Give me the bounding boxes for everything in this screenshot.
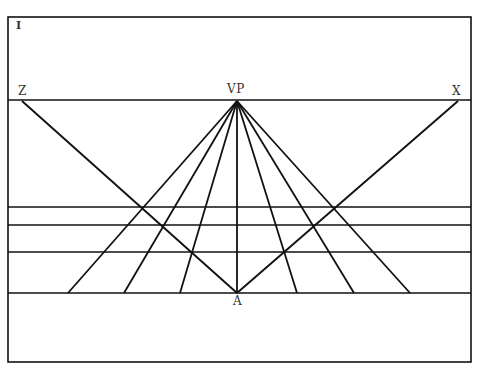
perspective-diagram (0, 0, 481, 366)
converging-line (124, 101, 237, 293)
converging-line (237, 101, 410, 293)
diagonal-line (237, 101, 458, 293)
converging-line (237, 101, 354, 293)
label-vp: VP (227, 82, 245, 96)
label-a: A (233, 294, 242, 308)
figure-number: I (16, 19, 22, 32)
diagonal-line (22, 101, 237, 293)
converging-line (180, 101, 237, 293)
converging-line (237, 101, 297, 293)
label-x: X (452, 84, 461, 98)
frame (8, 17, 471, 362)
label-z: Z (18, 84, 27, 98)
converging-line (68, 101, 237, 293)
